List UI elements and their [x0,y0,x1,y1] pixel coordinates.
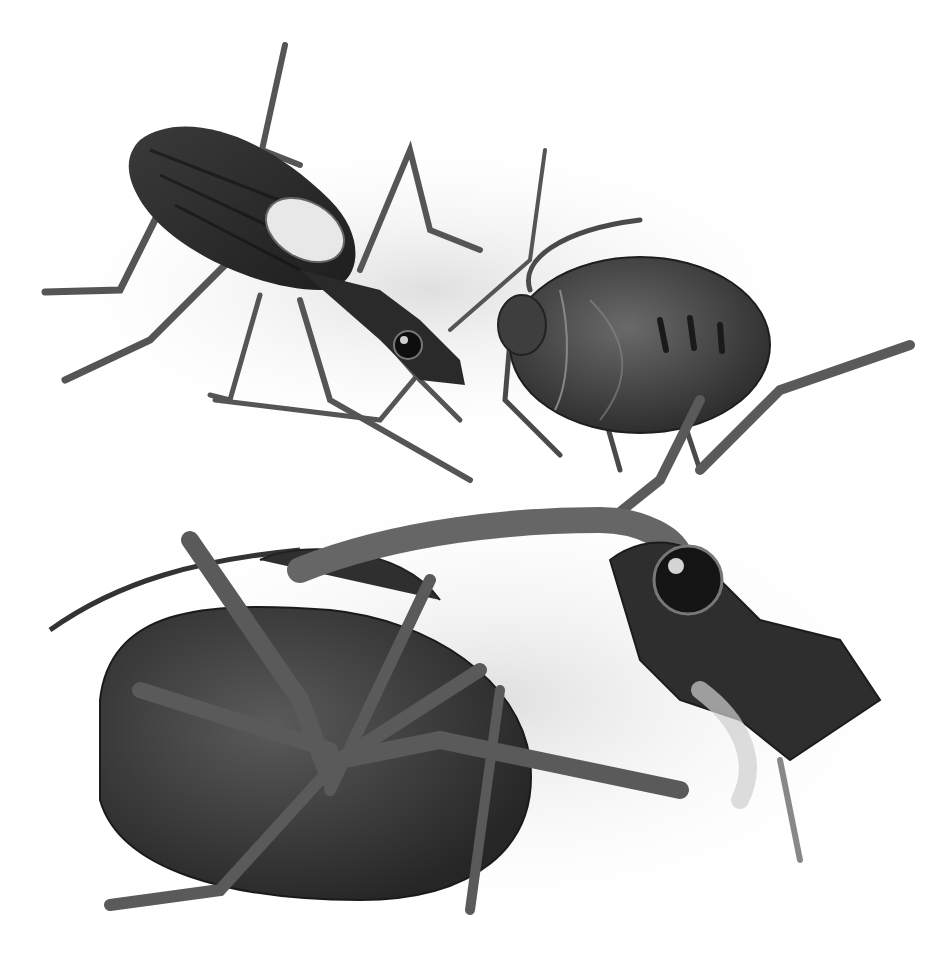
assassin-eye [654,546,722,614]
illustration-canvas [0,0,952,960]
insect-illustration [0,0,952,960]
nymph-eye [394,331,422,359]
shield-body [510,257,770,433]
shield-head [498,295,546,355]
